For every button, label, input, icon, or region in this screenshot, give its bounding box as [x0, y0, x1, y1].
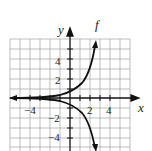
- y-axis-label: y: [56, 22, 64, 37]
- x-tick-label-4: 4: [106, 104, 112, 116]
- function-label-f: f: [95, 17, 101, 32]
- function-graph: y x f −4 2 4 4 2 −2 −4: [0, 0, 152, 151]
- y-tick-label-4: 4: [55, 55, 61, 67]
- x-tick-label-2: 2: [87, 104, 93, 116]
- y-tick-label-neg2: −2: [48, 112, 60, 124]
- curve-neg-f-arrow-icon: [92, 144, 98, 151]
- curve-f-arrow-icon: [92, 40, 98, 48]
- y-axis-arrow-icon: [67, 28, 73, 36]
- x-axis-label: x: [137, 100, 144, 115]
- y-tick-label-2: 2: [55, 74, 61, 86]
- curve-f: [13, 46, 95, 98]
- x-tick-label-neg4: −4: [24, 104, 36, 116]
- y-tick-label-neg4: −4: [48, 131, 60, 143]
